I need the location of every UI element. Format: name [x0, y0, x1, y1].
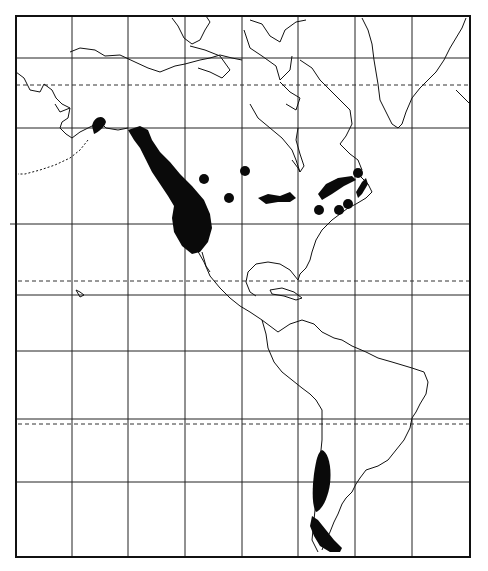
map-frame [16, 16, 470, 557]
point-6 [334, 205, 344, 215]
point-7 [343, 199, 353, 209]
grid [10, 16, 470, 557]
coastlines [16, 16, 470, 552]
dashed-parallels [16, 85, 470, 424]
point-4 [353, 168, 363, 178]
point-records [199, 166, 363, 215]
newfoundland-range [356, 178, 368, 198]
point-2 [240, 166, 250, 176]
pacific-coast-range [128, 126, 212, 254]
alaska-peninsula-patch [92, 117, 106, 134]
southern-andes-range [313, 450, 331, 512]
point-5 [314, 205, 324, 215]
st-lawrence-range [318, 176, 356, 200]
distribution-map [0, 0, 488, 571]
great-lakes-range [258, 192, 296, 204]
point-3 [224, 193, 234, 203]
point-1 [199, 174, 209, 184]
